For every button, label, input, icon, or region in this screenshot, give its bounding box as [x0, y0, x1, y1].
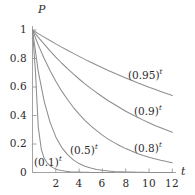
x-tick-label-6: 6 [91, 178, 113, 189]
curve-label-05: (0.5)t [70, 144, 98, 155]
curve-095 [33, 30, 173, 96]
curve-label-095-base: (0.95) [128, 69, 160, 81]
y-tick-label-0.8: 0.8 [2, 53, 27, 64]
curve-09 [33, 30, 173, 132]
x-tick-label-4: 4 [68, 178, 90, 189]
curve-label-08: (0.8)t [134, 142, 162, 153]
exponential-decay-chart: P t 1 0.8 0.6 0.4 0.2 0 2 4 6 8 10 12 (0… [0, 0, 195, 195]
y-tick-label-0: 0 [2, 167, 27, 178]
curve-label-09: (0.9)t [134, 105, 162, 116]
curve-label-09-exponent: t [159, 104, 162, 112]
y-axis-label: P [38, 4, 46, 15]
curve-label-095-exponent: t [160, 68, 163, 76]
x-tick-label-8: 8 [115, 178, 137, 189]
curve-label-09-base: (0.9) [134, 105, 159, 117]
curve-label-01: (0.1)t [34, 156, 62, 167]
curve-label-01-base: (0.1) [34, 156, 59, 168]
x-tick-label-12: 12 [161, 178, 183, 189]
curve-label-08-exponent: t [159, 141, 162, 149]
y-tick-label-0.6: 0.6 [2, 81, 27, 92]
x-tick-label-10: 10 [138, 178, 160, 189]
curve-label-095: (0.95)t [128, 69, 162, 80]
y-tick-label-0.4: 0.4 [2, 110, 27, 121]
y-tick-label-1: 1 [2, 24, 27, 35]
curve-label-05-base: (0.5) [70, 144, 95, 156]
curve-label-08-base: (0.8) [134, 142, 159, 154]
plot-canvas [0, 0, 195, 195]
x-tick-label-2: 2 [45, 178, 67, 189]
x-axis-label: t [181, 166, 186, 177]
curve-label-01-exponent: t [59, 155, 62, 163]
curve-label-05-exponent: t [95, 143, 98, 151]
y-tick-label-0.2: 0.2 [2, 138, 27, 149]
